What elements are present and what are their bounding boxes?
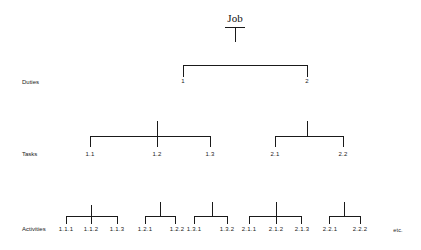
activity-node: 1.3.1 bbox=[187, 226, 201, 232]
tree-connectors bbox=[0, 0, 421, 250]
activity-node: 1.1.3 bbox=[110, 226, 124, 232]
task-node: 1.3 bbox=[206, 151, 215, 157]
continuation-etc: etc. bbox=[393, 227, 403, 233]
task-node: 2.1 bbox=[271, 151, 280, 157]
level-label-duties: Duties bbox=[22, 79, 39, 85]
level-label-activities: Activities bbox=[22, 226, 46, 232]
root-node-job: Job bbox=[227, 12, 242, 24]
activity-node: 1.3.2 bbox=[220, 226, 234, 232]
activity-node: 2.1.1 bbox=[242, 226, 256, 232]
activity-node: 2.2.1 bbox=[323, 226, 337, 232]
activity-node: 1.1.1 bbox=[59, 226, 73, 232]
activity-node: 2.1.3 bbox=[295, 226, 309, 232]
task-node: 2.2 bbox=[339, 151, 348, 157]
activity-node: 1.2.1 bbox=[138, 226, 152, 232]
task-node: 1.2 bbox=[153, 151, 162, 157]
activity-node: 1.1.2 bbox=[84, 226, 98, 232]
duty-node: 1 bbox=[181, 78, 185, 84]
activity-node: 2.1.2 bbox=[269, 226, 283, 232]
activity-node: 2.2.2 bbox=[353, 226, 367, 232]
task-node: 1.1 bbox=[86, 151, 95, 157]
level-label-tasks: Tasks bbox=[22, 151, 37, 157]
activity-node: 1.2.2 bbox=[170, 226, 184, 232]
duty-node: 2 bbox=[305, 78, 309, 84]
